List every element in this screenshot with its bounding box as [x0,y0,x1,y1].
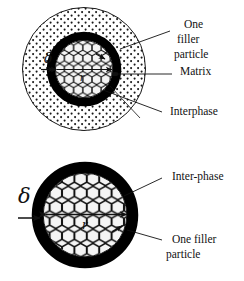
top-panel [23,8,173,131]
delta-label-bottom: δ [18,190,31,203]
label-interphase: Interphase [170,105,218,118]
radius-label-bottom: r [82,218,88,231]
label-one: One [184,18,203,31]
radius-label-top: r [80,71,85,84]
delta-label-top: δ [44,52,52,65]
matrix-marker [111,72,118,76]
label-filler: filler [177,33,199,46]
bottom-panel [18,168,162,263]
label-inter-phase: Inter-phase [172,170,224,183]
label-particle-bottom: particle [166,248,200,261]
label-one-filler: One filler [172,233,216,246]
figure-root: δ r One filler particle Matrix Interphas… [0,0,244,281]
label-matrix: Matrix [180,65,211,78]
label-particle: particle [174,48,208,61]
